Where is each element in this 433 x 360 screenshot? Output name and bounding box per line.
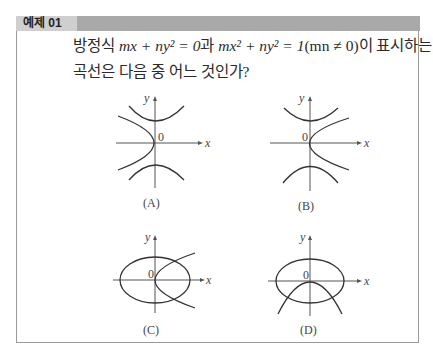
graph-c-origin-label: 0 xyxy=(148,267,154,281)
graph-b-caption: (B) xyxy=(298,199,314,213)
graph-b-parabola xyxy=(310,118,350,170)
graph-d-y-label: y xyxy=(299,230,306,244)
graph-a-y-label: y xyxy=(143,91,150,105)
graph-c-caption: (C) xyxy=(143,323,159,337)
graph-a-y-arrow xyxy=(153,96,157,101)
graph-d-origin-label: 0 xyxy=(303,268,309,282)
graph-a-hyperbola-upper xyxy=(129,106,184,121)
graph-d-x-arrow xyxy=(357,279,362,283)
graphs-canvas: x y 0 (A) x y 0 (B) x y 0 (C) xyxy=(0,0,433,360)
graph-d: x y 0 (D) xyxy=(268,230,370,337)
graph-b-y-label: y xyxy=(298,91,305,105)
graph-b-hyperbola-upper xyxy=(284,108,338,121)
graph-d-x-label: x xyxy=(363,274,370,288)
graph-a-x-arrow xyxy=(198,141,203,145)
graph-c-y-arrow xyxy=(153,235,157,240)
graph-c-y-label: y xyxy=(144,230,151,244)
graph-c-x-label: x xyxy=(205,273,212,287)
graph-a-origin-label: 0 xyxy=(158,130,164,144)
graph-b-x-arrow xyxy=(357,141,362,145)
graph-b-x-label: x xyxy=(363,136,370,150)
graph-c: x y 0 (C) xyxy=(113,230,212,337)
graph-b-y-arrow xyxy=(308,96,312,101)
graph-c-x-arrow xyxy=(200,278,205,282)
graph-a-x-label: x xyxy=(204,136,211,150)
graph-d-caption: (D) xyxy=(300,323,317,337)
graph-a: x y 0 (A) xyxy=(116,91,211,210)
graph-a-caption: (A) xyxy=(143,196,160,210)
graph-b-origin-label: 0 xyxy=(302,130,308,144)
graph-b: x y 0 (B) xyxy=(270,91,370,213)
graph-a-hyperbola-lower xyxy=(129,165,184,180)
graph-d-y-arrow xyxy=(308,235,312,240)
